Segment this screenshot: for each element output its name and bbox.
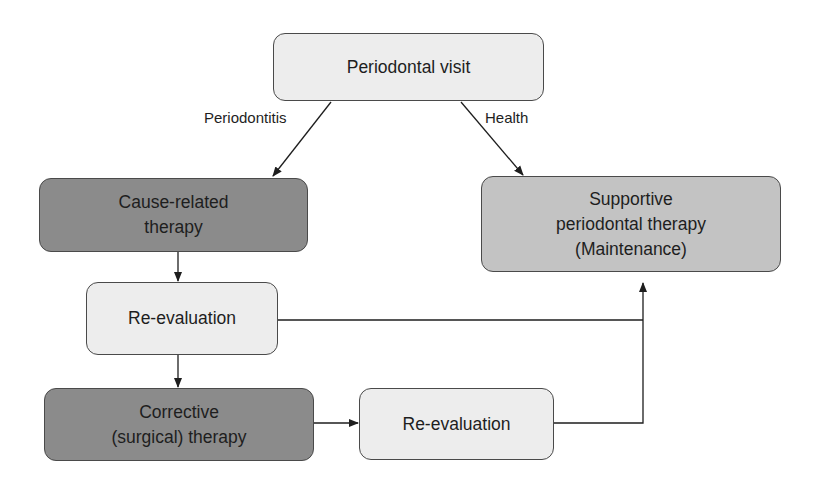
node-supportive-periodontal-therapy: Supportive periodontal therapy (Maintena… [481, 176, 781, 272]
node-label: Periodontal visit [347, 55, 471, 80]
node-label: Re-evaluation [128, 306, 236, 331]
edge-label-health: Health [485, 109, 528, 127]
node-label: (Maintenance) [575, 237, 687, 262]
node-cause-related-therapy: Cause-related therapy [39, 178, 308, 252]
node-reevaluation-1: Re-evaluation [86, 282, 278, 355]
node-periodontal-visit: Periodontal visit [273, 33, 544, 101]
node-label: therapy [144, 215, 202, 240]
node-label: Cause-related [119, 190, 229, 215]
node-label: Corrective [139, 400, 219, 425]
node-reevaluation-2: Re-evaluation [359, 388, 554, 460]
node-corrective-surgical-therapy: Corrective (surgical) therapy [44, 388, 314, 461]
node-label: (surgical) therapy [111, 425, 246, 450]
node-label: Re-evaluation [403, 412, 511, 437]
edge-label-periodontitis: Periodontitis [204, 109, 287, 127]
arrow-reeval2-to-maintenance [554, 283, 643, 423]
node-label: periodontal therapy [556, 212, 706, 237]
node-label: Supportive [589, 187, 673, 212]
